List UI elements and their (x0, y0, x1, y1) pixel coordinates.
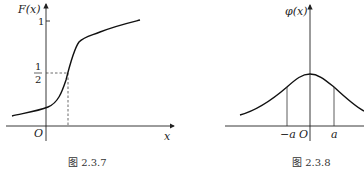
tick-one-label: 1 (38, 16, 44, 27)
x-axis-label: x (164, 130, 171, 143)
pos-a-label: a (331, 128, 338, 141)
figure-density: φ(x) −a O a 图 2.3.8 (225, 5, 364, 168)
density-curve (240, 74, 364, 115)
y-axis-label: φ(x) (285, 5, 308, 18)
half-numerator: 1 (35, 61, 41, 72)
half-denominator: 2 (35, 74, 41, 85)
neg-a-label: −a (280, 128, 296, 141)
figure-canvas: F(x) 1 1 2 O x 图 2.3.7 φ(x) −a O a 图 2.3… (0, 0, 364, 173)
figure-caption: 图 2.3.7 (68, 157, 107, 168)
origin-label: O (299, 128, 308, 141)
y-axis-label: F(x) (17, 3, 40, 16)
figure-caption: 图 2.3.8 (292, 157, 331, 168)
cdf-curve (12, 20, 140, 116)
figure-cdf: F(x) 1 1 2 O x 图 2.3.7 (6, 3, 174, 168)
origin-label: O (34, 127, 43, 140)
